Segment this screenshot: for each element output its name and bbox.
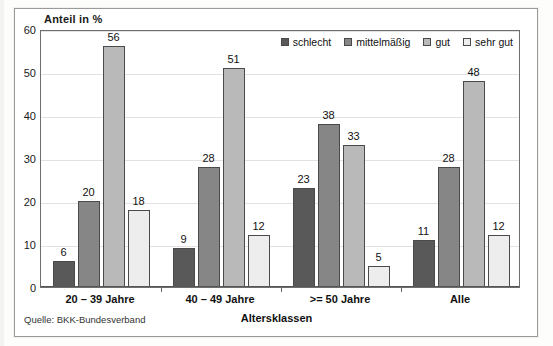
bar-slot: 33 <box>341 31 366 287</box>
bar[interactable] <box>343 145 365 287</box>
legend-swatch-icon <box>463 38 471 46</box>
source-note: Quelle: BKK-Bundesverband <box>24 314 145 325</box>
y-axis-tick-label: 30 <box>6 153 36 165</box>
y-axis-tick-label: 10 <box>6 239 36 251</box>
bar-slot: 12 <box>246 31 271 287</box>
y-axis-tick-label: 50 <box>6 67 36 79</box>
bar[interactable] <box>438 167 460 287</box>
bar-groups: 62056189285112233833511284812 <box>41 31 519 287</box>
bar-value-label: 51 <box>227 53 239 65</box>
bar-value-label: 38 <box>322 109 334 121</box>
bar-slot: 9 <box>171 31 196 287</box>
bar-value-label: 28 <box>442 152 454 164</box>
bar-slot: 6 <box>51 31 76 287</box>
bar-slot: 38 <box>316 31 341 287</box>
bar-value-label: 6 <box>60 246 66 258</box>
y-axis-title: Anteil in % <box>44 13 102 25</box>
bar-slot: 12 <box>486 31 511 287</box>
chart-figure: Anteil in % 0102030405060 62056189285112… <box>0 0 553 346</box>
bar-slot: 56 <box>101 31 126 287</box>
y-axis-tick-label: 20 <box>6 196 36 208</box>
legend-item[interactable]: schlecht <box>281 36 332 48</box>
bar-value-label: 20 <box>82 186 94 198</box>
category-label: Alle <box>450 293 470 305</box>
plot-area: 62056189285112233833511284812 schlechtmi… <box>40 30 520 288</box>
x-axis-baseline <box>41 286 519 287</box>
bar-slot: 20 <box>76 31 101 287</box>
category-label: >= 50 Jahre <box>310 293 371 305</box>
category-label: 20 – 39 Jahre <box>65 293 134 305</box>
category-labels: 20 – 39 Jahre40 – 49 Jahre>= 50 JahreAll… <box>40 293 520 309</box>
chart-legend: schlechtmittelmäßiggutsehr gut <box>281 36 513 48</box>
y-axis-tick-label: 40 <box>6 110 36 122</box>
bar[interactable] <box>128 210 150 287</box>
bar-value-label: 12 <box>252 220 264 232</box>
bar[interactable] <box>463 81 485 287</box>
bar-value-label: 23 <box>297 173 309 185</box>
bar-value-label: 11 <box>418 225 429 237</box>
bar[interactable] <box>413 240 435 287</box>
bar[interactable] <box>53 261 75 287</box>
legend-item[interactable]: sehr gut <box>463 36 513 48</box>
legend-label: mittelmäßig <box>356 36 410 48</box>
legend-item[interactable]: gut <box>423 36 450 48</box>
bar[interactable] <box>173 248 195 287</box>
bar[interactable] <box>248 235 270 287</box>
bar-slot: 28 <box>436 31 461 287</box>
bar-value-label: 28 <box>202 152 214 164</box>
bar[interactable] <box>488 235 510 287</box>
bar-slot: 51 <box>221 31 246 287</box>
legend-swatch-icon <box>344 38 352 46</box>
bar-slot: 5 <box>366 31 391 287</box>
bar-value-label: 5 <box>375 251 381 263</box>
bar[interactable] <box>223 68 245 287</box>
bar-value-label: 12 <box>492 220 504 232</box>
y-axis-tick-label: 0 <box>6 282 36 294</box>
legend-label: gut <box>435 36 450 48</box>
bar-slot: 23 <box>291 31 316 287</box>
legend-label: sehr gut <box>475 36 513 48</box>
bar-slot: 11 <box>411 31 436 287</box>
bar[interactable] <box>368 266 390 288</box>
bar-slot: 28 <box>196 31 221 287</box>
bar-value-label: 9 <box>180 233 186 245</box>
bar-slot: 18 <box>126 31 151 287</box>
legend-item[interactable]: mittelmäßig <box>344 36 410 48</box>
bar-slot: 48 <box>461 31 486 287</box>
y-axis-tick-labels: 0102030405060 <box>0 30 36 288</box>
y-axis-tick-label: 60 <box>6 24 36 36</box>
bar[interactable] <box>198 167 220 287</box>
bar[interactable] <box>293 188 315 287</box>
bar-value-label: 48 <box>467 66 479 78</box>
bar-value-label: 33 <box>347 130 359 142</box>
category-label: 40 – 49 Jahre <box>185 293 254 305</box>
bar[interactable] <box>78 201 100 287</box>
bar-value-label: 56 <box>107 31 119 43</box>
bar-value-label: 18 <box>132 195 144 207</box>
legend-label: schlecht <box>293 36 332 48</box>
bar[interactable] <box>103 46 125 287</box>
bar-group: 9285112 <box>161 31 281 287</box>
legend-swatch-icon <box>281 38 289 46</box>
bar-group: 2338335 <box>281 31 401 287</box>
bar[interactable] <box>318 124 340 287</box>
bar-group: 6205618 <box>41 31 161 287</box>
legend-swatch-icon <box>423 38 431 46</box>
bar-group: 11284812 <box>401 31 521 287</box>
